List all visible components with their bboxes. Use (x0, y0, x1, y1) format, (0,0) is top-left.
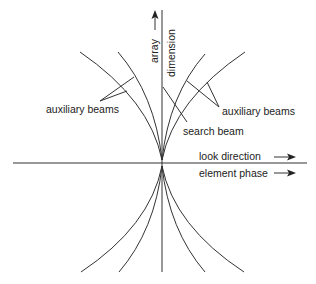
label-auxiliary-beams-left: auxiliary beams (46, 103, 119, 115)
pointer-aux-right-1 (187, 81, 219, 107)
beam-diagram: array dimension auxiliary beams auxiliar… (0, 0, 316, 284)
beam-left-inner-lower (119, 166, 162, 272)
label-look-direction: look direction (199, 150, 261, 162)
beam-right-inner-lower (162, 166, 205, 272)
label-array: array (148, 39, 160, 63)
label-element-phase: element phase (199, 167, 268, 179)
label-search-beam: search beam (183, 125, 244, 137)
pointer-aux-left-1 (100, 77, 134, 101)
pointer-aux-right-2 (207, 82, 219, 107)
label-dimension: dimension (165, 29, 177, 77)
label-auxiliary-beams-right: auxiliary beams (222, 105, 295, 117)
beam-left-inner-upper (118, 52, 162, 160)
pointer-aux-left-2 (100, 91, 127, 101)
pointer-search-beam (163, 87, 187, 122)
